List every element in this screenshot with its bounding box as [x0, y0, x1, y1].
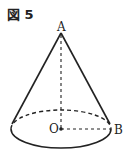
cone-diagram: A O B [0, 0, 132, 162]
label-O: O [49, 122, 59, 136]
label-B: B [114, 123, 123, 137]
label-A: A [56, 20, 66, 34]
base-front-solid [11, 129, 111, 148]
center-point-O [59, 127, 63, 131]
